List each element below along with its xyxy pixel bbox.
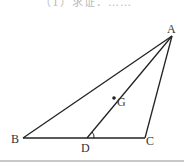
segment-ad xyxy=(87,36,172,138)
label-c: C xyxy=(146,134,154,148)
point-g-dot xyxy=(112,96,116,100)
label-g: G xyxy=(117,95,126,109)
angle-mark-adc xyxy=(92,132,94,138)
label-d: D xyxy=(81,141,90,155)
label-a: A xyxy=(167,22,176,36)
bottom-divider xyxy=(0,160,184,162)
label-b: B xyxy=(11,132,19,146)
triangle-diagram: A B C D G xyxy=(0,0,184,163)
